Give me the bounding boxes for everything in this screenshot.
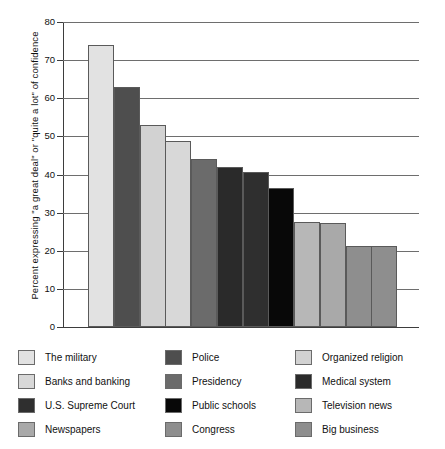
- plot-area: [63, 22, 419, 327]
- legend-swatch: [295, 422, 312, 437]
- legend-item[interactable]: Congress: [165, 417, 315, 441]
- legend-column: PolicePresidencyPublic schoolsCongress: [165, 345, 315, 441]
- y-axis-title: Percent expressing "a great deal" or "qu…: [29, 6, 40, 326]
- legend-item[interactable]: Television news: [295, 393, 445, 417]
- bar: [114, 87, 140, 327]
- legend-swatch: [295, 374, 312, 389]
- legend-item[interactable]: Big business: [295, 417, 445, 441]
- legend-label: Presidency: [192, 376, 241, 387]
- bar: [88, 45, 114, 327]
- legend-swatch: [165, 350, 182, 365]
- legend-swatch: [295, 350, 312, 365]
- bar: [294, 222, 320, 327]
- legend-column: Organized religionMedical systemTelevisi…: [295, 345, 445, 441]
- legend-item[interactable]: Medical system: [295, 369, 445, 393]
- y-axis-tick-label: 20: [15, 246, 55, 256]
- legend-label: Police: [192, 352, 219, 363]
- legend-item[interactable]: U.S. Supreme Court: [18, 393, 168, 417]
- legend-column: The militaryBanks and bankingU.S. Suprem…: [18, 345, 168, 441]
- legend-item[interactable]: Banks and banking: [18, 369, 168, 393]
- bar: [320, 223, 346, 327]
- legend-item[interactable]: Public schools: [165, 393, 315, 417]
- legend-label: Newspapers: [45, 424, 101, 435]
- legend-label: The military: [45, 352, 97, 363]
- bar: [346, 246, 372, 327]
- legend-swatch: [295, 398, 312, 413]
- bar-series: [88, 22, 397, 327]
- y-axis-tick: [57, 60, 63, 61]
- y-axis-tick-label: 30: [15, 208, 55, 218]
- y-axis-tick-label: 50: [15, 131, 55, 141]
- bar: [268, 188, 294, 327]
- legend-label: Big business: [322, 424, 379, 435]
- legend-label: Television news: [322, 400, 392, 411]
- y-axis-tick: [57, 289, 63, 290]
- y-axis-tick: [57, 251, 63, 252]
- bar: [140, 125, 166, 327]
- y-axis-tick: [57, 98, 63, 99]
- y-axis-tick-label: 10: [15, 284, 55, 294]
- chart-legend: The militaryBanks and bankingU.S. Suprem…: [18, 345, 438, 445]
- legend-swatch: [165, 422, 182, 437]
- y-axis-tick-label: 80: [15, 17, 55, 27]
- y-axis-tick-label: 40: [15, 170, 55, 180]
- y-axis-tick-label: 70: [15, 55, 55, 65]
- legend-item[interactable]: Police: [165, 345, 315, 369]
- legend-label: Organized religion: [322, 352, 403, 363]
- legend-item[interactable]: Presidency: [165, 369, 315, 393]
- legend-label: Banks and banking: [45, 376, 130, 387]
- y-axis-tick: [57, 22, 63, 23]
- bar: [217, 167, 243, 327]
- y-axis-tick: [57, 175, 63, 176]
- legend-swatch: [165, 374, 182, 389]
- gridline: [63, 327, 419, 328]
- legend-swatch: [18, 350, 35, 365]
- legend-swatch: [18, 374, 35, 389]
- legend-swatch: [18, 398, 35, 413]
- legend-label: Public schools: [192, 400, 256, 411]
- bar: [243, 172, 269, 327]
- y-axis-tick-label: 0: [15, 322, 55, 332]
- y-axis-tick: [57, 136, 63, 137]
- bar: [191, 159, 217, 327]
- y-axis-tick: [57, 213, 63, 214]
- legend-label: Congress: [192, 424, 235, 435]
- legend-label: Medical system: [322, 376, 391, 387]
- legend-item[interactable]: Organized religion: [295, 345, 445, 369]
- y-axis-tick-label: 60: [15, 93, 55, 103]
- confidence-bar-chart: Percent expressing "a great deal" or "qu…: [0, 0, 445, 449]
- legend-label: U.S. Supreme Court: [45, 400, 135, 411]
- bar: [371, 246, 397, 327]
- legend-swatch: [165, 398, 182, 413]
- y-axis-tick: [57, 327, 63, 328]
- legend-item[interactable]: The military: [18, 345, 168, 369]
- legend-swatch: [18, 422, 35, 437]
- bar: [165, 141, 191, 327]
- legend-item[interactable]: Newspapers: [18, 417, 168, 441]
